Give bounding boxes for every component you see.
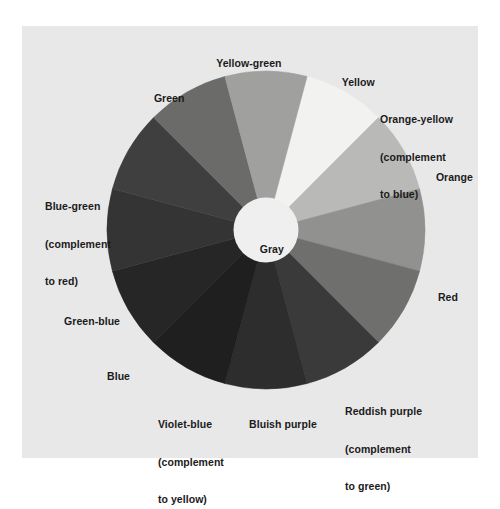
wedge-label-orange-line1: Orange [436,171,473,183]
wedge-label-reddish-purple: Reddish purple (complement to green) [345,380,475,509]
wedge-label-violet-blue-line2: (complement [158,456,278,469]
hub-label-gray-text: Gray [260,243,284,255]
wedge-label-red-line1: Red [438,291,458,303]
wedge-label-reddish-purple-line2: (complement [345,443,475,456]
wedge-label-orange-yellow: Orange-yellow (complement to blue) [380,88,495,226]
wedge-label-yellow-line1: Yellow [342,76,375,88]
wedge-label-blue-green-line3: to red) [45,275,155,288]
hub-label-gray: Gray [226,231,306,267]
wedge-label-violet-blue-line1: Violet-blue [158,418,278,431]
wedge-label-blue: Blue [65,357,130,395]
wedge-label-green-blue-line1: Green-blue [64,315,120,327]
wedge-label-green: Green [142,79,212,117]
wedge-label-green-line1: Green [154,92,185,104]
wedge-label-violet-blue-line3: to yellow) [158,493,278,506]
wedge-label-orange-yellow-line1: Orange-yellow [380,113,495,126]
wedge-label-violet-blue: Violet-blue (complement to yellow) [158,393,278,509]
wedge-label-yellow-green-line1: Yellow-green [216,57,281,69]
wedge-label-blue-green-line2: (complement [45,238,155,251]
wedge-label-yellow-green: Yellow-green [183,44,303,82]
wedge-label-blue-green: Blue-green (complement to red) [45,175,155,313]
wedge-label-reddish-purple-line3: to green) [345,480,475,493]
wedge-label-orange: Orange [424,158,494,196]
wedge-label-reddish-purple-line1: Reddish purple [345,405,475,418]
wedge-label-blue-green-line1: Blue-green [45,200,155,213]
wedge-label-blue-line1: Blue [107,370,130,382]
wedge-label-red: Red [426,278,486,316]
